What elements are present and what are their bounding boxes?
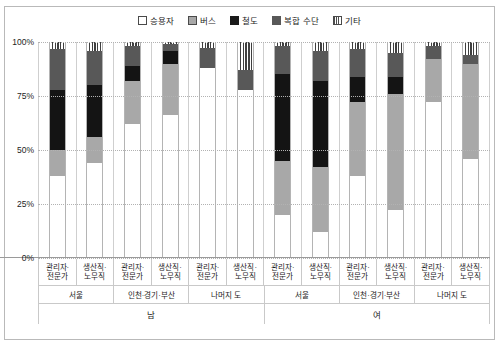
gridline-100 bbox=[38, 42, 490, 43]
axis-label-line2: 전문가 bbox=[189, 272, 226, 281]
bar-segment-bus[interactable] bbox=[274, 161, 291, 215]
bar-segment-etc[interactable] bbox=[86, 42, 103, 51]
axis-label-occupation: 관리자·전문가 bbox=[114, 259, 152, 285]
y-axis-tick-50: 50% bbox=[17, 145, 34, 155]
axis-label-occupation: 생산직·노무직 bbox=[452, 259, 490, 285]
axis-row-region: 서울인천·경기·부산나머지 도서울인천·경기·부산나머지 도 bbox=[38, 285, 490, 303]
axis-label-line2: 전문가 bbox=[264, 272, 301, 281]
bar-segment-etc[interactable] bbox=[387, 42, 404, 53]
legend-label-rail: 철도 bbox=[242, 14, 258, 26]
axis-label-sex: 남 bbox=[38, 304, 265, 324]
bar-segment-multi[interactable] bbox=[387, 53, 404, 77]
legend-item-rail[interactable]: 철도 bbox=[230, 14, 258, 26]
bar-segment-multi[interactable] bbox=[274, 46, 291, 74]
axis-label-occupation: 관리자·전문가 bbox=[264, 259, 302, 285]
legend-label-car: 승용자 bbox=[150, 14, 174, 26]
bar-segment-bus[interactable] bbox=[124, 81, 141, 124]
bar-segment-rail[interactable] bbox=[162, 51, 179, 64]
legend-label-multi: 복합 수단 bbox=[284, 14, 318, 26]
bar-segment-multi[interactable] bbox=[86, 51, 103, 86]
axis-label-line2: 전문가 bbox=[114, 272, 151, 281]
bar-segment-rail[interactable] bbox=[387, 77, 404, 94]
legend-swatch-car bbox=[138, 16, 147, 25]
bar-segment-multi[interactable] bbox=[462, 55, 479, 64]
axis-label-occupation: 생산직·노무직 bbox=[152, 259, 190, 285]
legend-swatch-bus bbox=[188, 16, 197, 25]
bar-segment-bus[interactable] bbox=[349, 102, 366, 175]
legend-label-etc: 기타 bbox=[345, 14, 361, 26]
bar-segment-rail[interactable] bbox=[274, 74, 291, 160]
axis-label-occupation: 관리자·전문가 bbox=[415, 259, 453, 285]
axis-label-occupation: 관리자·전문가 bbox=[189, 259, 227, 285]
bar-segment-car[interactable] bbox=[349, 176, 366, 258]
legend-swatch-rail bbox=[230, 16, 239, 25]
bar-segment-car[interactable] bbox=[86, 163, 103, 258]
axis-label-occupation: 생산직·노무직 bbox=[77, 259, 115, 285]
axis-label-sex: 여 bbox=[265, 304, 491, 324]
axis-label-line2: 노무직 bbox=[452, 272, 489, 281]
axis-label-region: 나머지 도 bbox=[415, 286, 490, 303]
axis-label-line2: 전문가 bbox=[39, 272, 76, 281]
bar-segment-multi[interactable] bbox=[124, 46, 141, 65]
bar-segment-multi[interactable] bbox=[199, 48, 216, 67]
bar-segment-rail[interactable] bbox=[86, 85, 103, 137]
axis-label-line2: 전문가 bbox=[415, 272, 452, 281]
bar-segment-multi[interactable] bbox=[425, 46, 442, 59]
stacked-bar-chart: 승용자버스철도복합 수단기타 100%75%50%25%0% 관리자·전문가생산… bbox=[0, 0, 499, 344]
legend-item-bus[interactable]: 버스 bbox=[188, 14, 216, 26]
bar-segment-multi[interactable] bbox=[312, 51, 329, 81]
bar-segment-multi[interactable] bbox=[349, 49, 366, 77]
bar-segment-car[interactable] bbox=[49, 176, 66, 258]
axis-label-region: 서울 bbox=[38, 286, 114, 303]
bar-segment-car[interactable] bbox=[462, 159, 479, 258]
axis-label-line2: 노무직 bbox=[377, 272, 414, 281]
category-axis: 관리자·전문가생산직·노무직관리자·전문가생산직·노무직관리자·전문가생산직·노… bbox=[38, 259, 490, 324]
axis-label-line2: 노무직 bbox=[152, 272, 189, 281]
bar-segment-car[interactable] bbox=[387, 210, 404, 258]
bar-segment-etc[interactable] bbox=[312, 42, 329, 51]
bar-segment-etc[interactable] bbox=[237, 42, 254, 70]
gridline-50 bbox=[38, 150, 490, 151]
bar-segment-bus[interactable] bbox=[49, 150, 66, 176]
bar-segment-car[interactable] bbox=[162, 115, 179, 258]
bar-segment-car[interactable] bbox=[124, 124, 141, 258]
axis-label-occupation: 관리자·전문가 bbox=[340, 259, 378, 285]
bar-segment-car[interactable] bbox=[312, 232, 329, 258]
legend-item-multi[interactable]: 복합 수단 bbox=[272, 14, 318, 26]
legend-item-car[interactable]: 승용자 bbox=[138, 14, 174, 26]
bar-segment-etc[interactable] bbox=[462, 42, 479, 55]
bar-segment-rail[interactable] bbox=[349, 77, 366, 103]
bar-segment-bus[interactable] bbox=[162, 64, 179, 116]
bar-segment-multi[interactable] bbox=[49, 49, 66, 90]
axis-row-occupation: 관리자·전문가생산직·노무직관리자·전문가생산직·노무직관리자·전문가생산직·노… bbox=[38, 259, 490, 285]
legend-swatch-etc bbox=[333, 16, 342, 25]
legend-label-bus: 버스 bbox=[200, 14, 216, 26]
bar-segment-car[interactable] bbox=[425, 102, 442, 258]
axis-label-region: 나머지 도 bbox=[189, 286, 264, 303]
bar-segment-rail[interactable] bbox=[49, 90, 66, 150]
axis-label-occupation: 생산직·노무직 bbox=[302, 259, 340, 285]
bar-segment-multi[interactable] bbox=[237, 70, 254, 89]
axis-row-sex: 남여 bbox=[38, 303, 490, 324]
axis-label-occupation: 생산직·노무직 bbox=[377, 259, 415, 285]
axis-label-line2: 노무직 bbox=[77, 272, 114, 281]
bar-segment-car[interactable] bbox=[237, 90, 254, 258]
axis-label-line2: 노무직 bbox=[302, 272, 339, 281]
chart-legend: 승용자버스철도복합 수단기타 bbox=[0, 14, 499, 26]
axis-label-region: 인천·경기·부산 bbox=[114, 286, 189, 303]
bar-segment-car[interactable] bbox=[274, 215, 291, 258]
bar-segment-rail[interactable] bbox=[124, 66, 141, 81]
y-axis-tick-100: 100% bbox=[12, 37, 34, 47]
axis-label-occupation: 생산직·노무직 bbox=[227, 259, 265, 285]
legend-swatch-multi bbox=[272, 16, 281, 25]
bar-segment-bus[interactable] bbox=[312, 167, 329, 232]
axis-label-line2: 전문가 bbox=[340, 272, 377, 281]
gridline-25 bbox=[38, 204, 490, 205]
bar-segment-bus[interactable] bbox=[462, 64, 479, 159]
plot-area: 100%75%50%25%0% bbox=[38, 42, 490, 258]
bar-segment-bus[interactable] bbox=[387, 94, 404, 211]
bar-segment-rail[interactable] bbox=[312, 81, 329, 167]
y-axis-tick-0: 0% bbox=[22, 253, 34, 263]
axis-label-occupation: 관리자·전문가 bbox=[38, 259, 77, 285]
legend-item-etc[interactable]: 기타 bbox=[333, 14, 361, 26]
